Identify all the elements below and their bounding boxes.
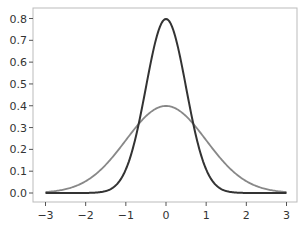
y-tick-label: 0.5 (10, 78, 28, 91)
y-tick-label: 0.1 (10, 165, 28, 178)
line-chart: 0.00.10.20.30.40.50.60.70.8 −3−2−10123 (0, 0, 308, 230)
y-tick-label: 0.4 (10, 100, 28, 113)
x-tick-label: −3 (37, 209, 53, 222)
x-tick-label: 1 (203, 209, 210, 222)
y-tick-label: 0.2 (10, 143, 28, 156)
x-tick-label: 2 (243, 209, 250, 222)
x-axis: −3−2−10123 (37, 202, 290, 222)
y-tick-label: 0.7 (10, 34, 28, 47)
x-tick-label: −1 (118, 209, 134, 222)
x-tick-label: 3 (283, 209, 290, 222)
y-tick-label: 0.6 (10, 56, 28, 69)
y-tick-label: 0.3 (10, 122, 28, 135)
x-tick-label: 0 (163, 209, 170, 222)
x-tick-label: −2 (78, 209, 94, 222)
y-tick-label: 0.8 (10, 13, 28, 26)
plot-frame (33, 8, 297, 202)
y-axis: 0.00.10.20.30.40.50.60.70.8 (10, 13, 34, 201)
y-tick-label: 0.0 (10, 187, 28, 200)
